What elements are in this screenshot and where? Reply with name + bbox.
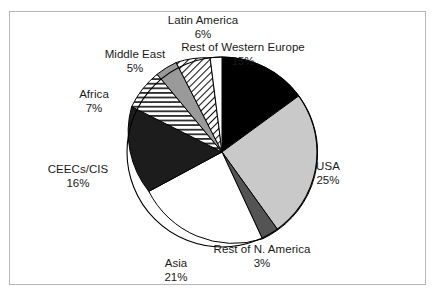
pie-label-name: USA	[316, 160, 340, 174]
pie-label-value: 7%	[79, 102, 109, 116]
pie-label-name: Rest of Western Europe	[181, 41, 305, 55]
pie-label-value: 3%	[214, 257, 311, 271]
pie-label-name: Middle East	[105, 48, 166, 62]
pie-label-middle-east: Middle East 5%	[105, 48, 166, 75]
pie-label-usa: USA 25%	[316, 160, 340, 187]
pie-label-name: Africa	[79, 88, 109, 102]
pie-label-africa: Africa 7%	[79, 88, 109, 115]
pie-label-name: Latin America	[168, 14, 238, 28]
pie-label-ceecs-cis: CEECs/CIS 16%	[48, 163, 109, 190]
pie-label-latin-america: Latin America 6%	[168, 14, 238, 41]
pie-label-value: 5%	[105, 62, 166, 76]
pie-label-name: Asia	[164, 257, 187, 271]
pie-label-asia: Asia 21%	[164, 257, 187, 284]
pie-label-name: CEECs/CIS	[48, 163, 109, 177]
pie-label-value: 15%	[181, 55, 305, 69]
pie-slices	[127, 57, 318, 247]
pie-label-value: 6%	[168, 28, 238, 42]
pie-label-name: Rest of N. America	[214, 243, 311, 257]
pie-label-value: 25%	[316, 174, 340, 188]
chart-canvas: Rest of Western Europe 15% USA 25% Rest …	[0, 0, 440, 299]
pie-label-value: 21%	[164, 271, 187, 285]
pie-label-rest-of-n-america: Rest of N. America 3%	[214, 243, 311, 270]
pie-label-rest-of-western-europe: Rest of Western Europe 15%	[181, 41, 305, 68]
pie-label-value: 16%	[48, 177, 109, 191]
